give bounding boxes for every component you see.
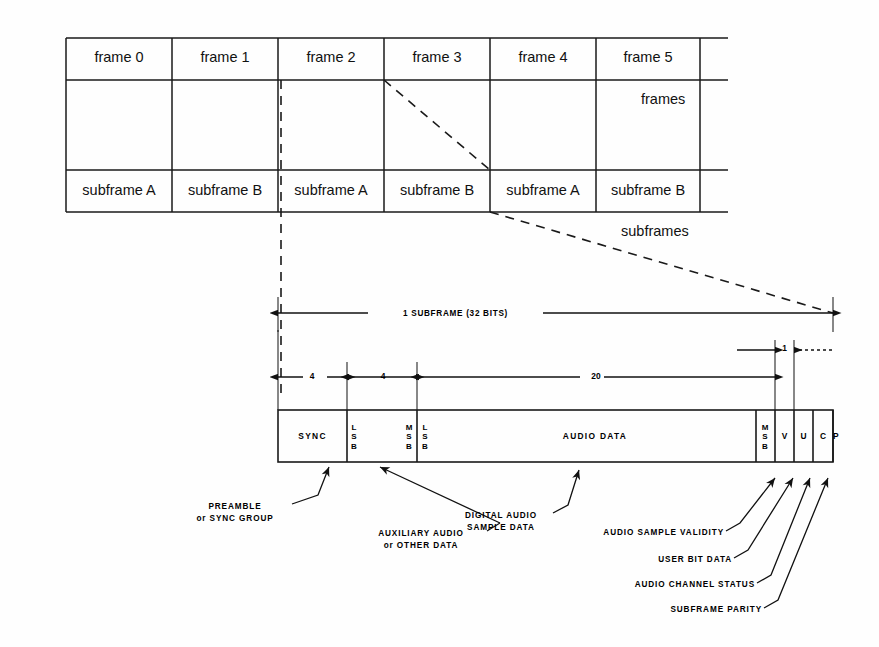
frames-row-label: frames <box>641 91 685 107</box>
subframes-cell-5-label: subframe B <box>611 182 685 198</box>
field-channel-status-label: C <box>813 431 833 441</box>
aux-msb-label: M S B <box>403 423 415 451</box>
subframes-cell-0: subframe A <box>66 183 172 198</box>
frames-cell-5: frame 5 <box>596 50 700 65</box>
subframes-cell-1: subframe B <box>172 183 278 198</box>
frames-cell-4-label: frame 4 <box>518 49 567 65</box>
field-user-label: U <box>794 431 813 441</box>
subframes-cell-3-label: subframe B <box>400 182 474 198</box>
dimension-field-widths <box>278 330 775 410</box>
dimension-sync-label: 4 <box>300 371 324 381</box>
subframes-cell-5: subframe B <box>596 183 700 198</box>
dimension-total-subframe <box>278 297 833 332</box>
dimension-audio-label: 20 <box>584 371 608 381</box>
subframes-cell-4: subframe A <box>490 183 596 198</box>
subframes-cell-0-label: subframe A <box>82 182 155 198</box>
frames-cell-3-label: frame 3 <box>412 49 461 65</box>
callout-digital-audio-line2: SAMPLE DATA <box>448 522 554 534</box>
dimension-total-label: 1 SUBFRAME (32 BITS) <box>368 308 543 320</box>
frames-cell-2-label: frame 2 <box>306 49 355 65</box>
leader-parity <box>764 478 828 608</box>
subframes-cell-4-label: subframe A <box>506 182 579 198</box>
frames-cell-5-label: frame 5 <box>623 49 672 65</box>
subframes-cell-2: subframe A <box>278 183 384 198</box>
callout-preamble: PREAMBLE or SYNC GROUP <box>178 501 292 525</box>
callout-preamble-line2: or SYNC GROUP <box>178 513 292 525</box>
frames-cell-1-label: frame 1 <box>200 49 249 65</box>
aux-lsb-label: L S B <box>348 423 360 451</box>
diagram-canvas: frame 0 frame 1 frame 2 frame 3 frame 4 … <box>0 0 879 647</box>
dimension-aux-label: 4 <box>371 371 395 381</box>
subframes-cell-3: subframe B <box>384 183 490 198</box>
subframes-cell-2-label: subframe A <box>294 182 367 198</box>
leader-user-bit <box>734 478 793 558</box>
callout-auxiliary-line2: or OTHER DATA <box>355 540 487 552</box>
frames-cell-4: frame 4 <box>490 50 596 65</box>
field-sync-label: SYNC <box>278 431 347 441</box>
callout-validity: AUDIO SAMPLE VALIDITY <box>556 527 724 539</box>
guide-diagonal-upper <box>384 80 490 170</box>
leader-preamble <box>292 467 329 504</box>
callout-digital-audio-line1: DIGITAL AUDIO <box>448 510 554 522</box>
audio-msb-label: M S B <box>759 423 771 451</box>
frames-cell-0-label: frame 0 <box>94 49 143 65</box>
frames-cell-2: frame 2 <box>278 50 384 65</box>
frames-cell-1: frame 1 <box>172 50 278 65</box>
callout-digital-audio: DIGITAL AUDIO SAMPLE DATA <box>448 510 554 534</box>
callout-channel-status: AUDIO CHANNEL STATUS <box>584 579 755 591</box>
leader-digital-audio <box>553 470 579 513</box>
subframes-cell-1-label: subframe B <box>188 182 262 198</box>
callout-preamble-line1: PREAMBLE <box>178 501 292 513</box>
field-validity-label: V <box>775 431 794 441</box>
frames-cell-0: frame 0 <box>66 50 172 65</box>
subframes-row-label: subframes <box>621 223 689 239</box>
dimension-single-bit-label: 1 <box>773 343 796 353</box>
frames-cell-3: frame 3 <box>384 50 490 65</box>
projection-guides <box>281 80 833 400</box>
audio-lsb-label: L S B <box>419 423 431 451</box>
field-audio-data-label: AUDIO DATA <box>440 431 750 441</box>
callout-parity: SUBFRAME PARITY <box>631 604 762 616</box>
leader-validity <box>726 478 775 531</box>
callout-user-bit: USER BIT DATA <box>594 554 732 566</box>
